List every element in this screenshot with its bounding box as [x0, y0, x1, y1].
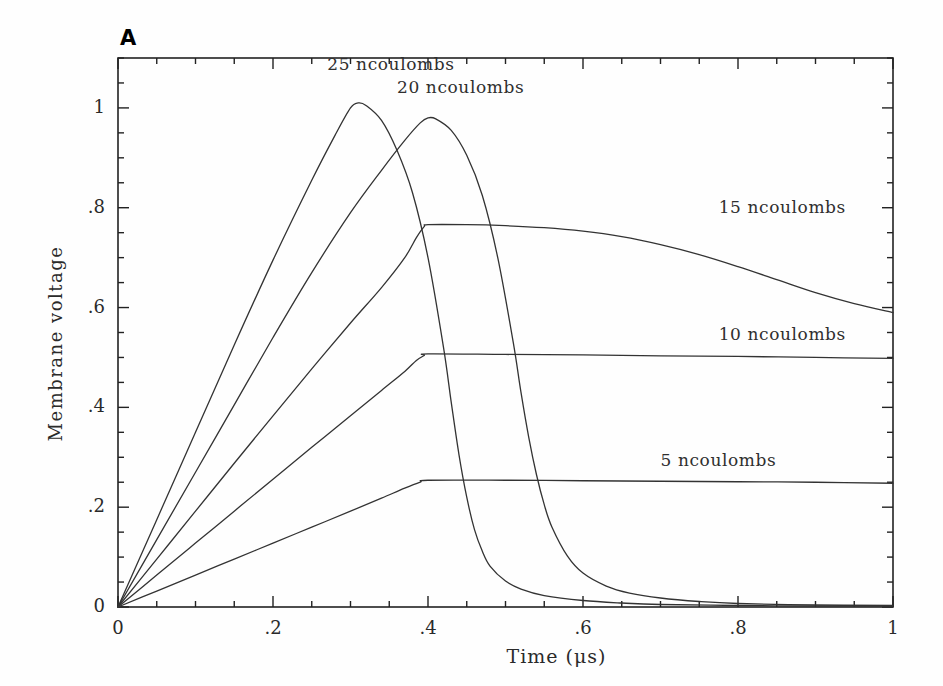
x-tick-label: .8	[708, 617, 768, 638]
x-tick-label: .2	[243, 617, 303, 638]
data-curves	[118, 103, 893, 607]
x-tick-label: 1	[863, 617, 923, 638]
x-axis-title: Time (μs)	[0, 645, 943, 667]
x-axis-title-text: Time (μs)	[507, 645, 607, 667]
x-tick-label: .6	[553, 617, 613, 638]
figure-panel-a: A Time (μs) Membrane voltage 0.2.4.6.81 …	[0, 0, 943, 686]
curve-label: 20 ncoulombs	[397, 77, 524, 97]
y-tick-label: .4	[45, 395, 105, 416]
y-tick-label: 1	[45, 96, 105, 117]
curve-label: 10 ncoulombs	[719, 324, 846, 344]
y-tick-label: .6	[45, 296, 105, 317]
x-tick-label: 0	[88, 617, 148, 638]
curve-20-ncoulombs	[118, 117, 893, 607]
y-tick-label: .2	[45, 495, 105, 516]
curve-15-ncoulombs	[118, 225, 893, 607]
curve-5-ncoulombs	[118, 480, 893, 607]
curve-label: 5 ncoulombs	[661, 450, 777, 470]
curve-label: 25 ncoulombs	[327, 54, 454, 74]
x-tick-label: .4	[398, 617, 458, 638]
curve-label: 15 ncoulombs	[719, 197, 846, 217]
y-tick-label: .8	[45, 196, 105, 217]
y-tick-label: 0	[45, 595, 105, 616]
